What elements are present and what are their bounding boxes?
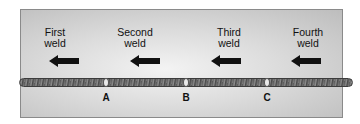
arrow-left-icon [49,55,79,67]
weld-label-4: Fourth weld [278,27,338,49]
point-label-a: A [100,92,112,103]
weld-label-2: Second weld [105,27,165,49]
weld-label-4-line2: weld [278,38,338,49]
arrow-left-icon [211,55,241,67]
diagram-panel: First weld Second weld Third weld Fourth… [20,9,343,118]
tack-point-b [183,78,189,87]
point-label-c: C [261,92,273,103]
weld-label-1-line2: weld [25,38,85,49]
arrow-left-icon [130,55,160,67]
weld-label-1: First weld [25,27,85,49]
arrow-left-icon [291,55,321,67]
point-label-b: B [180,92,192,103]
tack-point-a [103,78,109,87]
tack-point-c [264,78,270,87]
weld-label-3: Third weld [199,27,259,49]
weld-label-2-line2: weld [105,38,165,49]
weld-label-3-line2: weld [199,38,259,49]
